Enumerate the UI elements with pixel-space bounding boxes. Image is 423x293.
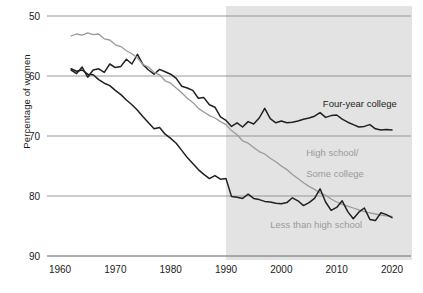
x-tick-label: 2020 [381, 264, 404, 275]
y-tick-label: 60 [29, 71, 41, 82]
x-tick-label: 1960 [49, 264, 72, 275]
annotation-less-than-high-school: Less than high school [270, 219, 362, 230]
y-tick-label: 70 [29, 131, 41, 142]
x-tick-label: 2010 [326, 264, 349, 275]
chart-container: Percentage of women 9080706050 196019701… [0, 0, 423, 293]
y-tick-label: 50 [29, 11, 41, 22]
y-tick-label: 90 [29, 251, 41, 262]
annotation-high-school-line2: Some college [306, 168, 364, 179]
x-tick-label: 1970 [104, 264, 127, 275]
x-tick-label: 1990 [215, 264, 238, 275]
y-axis-ticks: 9080706050 [29, 11, 41, 262]
line-chart: 9080706050 1960197019801990200020102020 … [0, 0, 423, 293]
x-axis-ticks: 1960197019801990200020102020 [49, 264, 404, 275]
y-tick-label: 80 [29, 191, 41, 202]
x-tick-label: 2000 [270, 264, 293, 275]
annotation-high-school-line1: High school/ [306, 147, 359, 158]
annotation-four-year-college: Four-year college [323, 98, 397, 109]
x-tick-label: 1980 [160, 264, 183, 275]
